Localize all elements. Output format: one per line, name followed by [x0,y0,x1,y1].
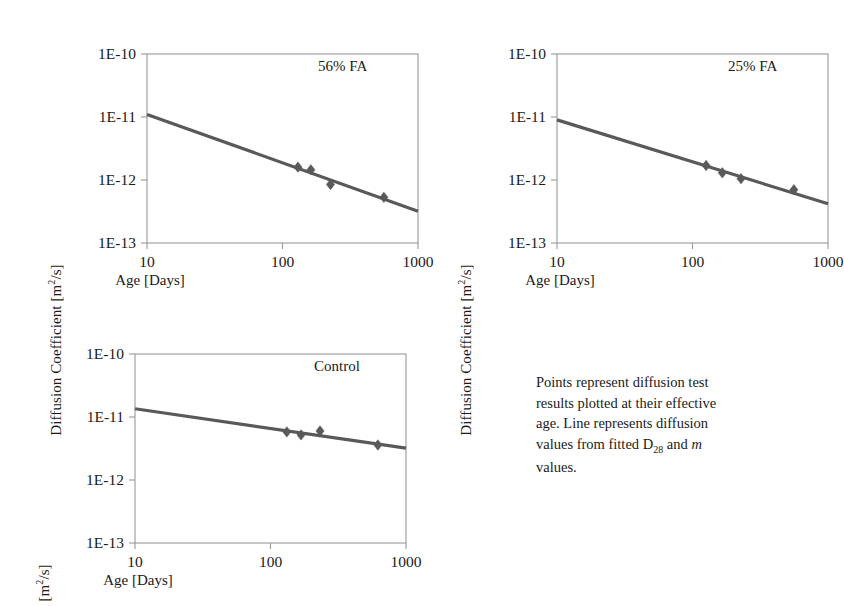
data-point-marker [283,427,291,437]
y-tick-label: 1E-11 [99,108,136,125]
y-tick-label: 1E-13 [86,534,124,551]
caption-line-4a: values from fitted D [536,436,653,452]
x-tick-label: 10 [549,253,565,270]
x-tick-label: 100 [259,553,283,570]
y-tick-label: 1E-10 [98,45,136,62]
caption-line-3: age. Line represents diffusion [536,415,708,431]
caption-subscript-28: 28 [653,444,663,455]
caption-line-2: results plotted at their effective [536,395,716,411]
caption-variable-m: m [691,436,701,452]
fit-line [147,114,418,211]
caption-line-4b: and [663,436,691,452]
y-tick-label: 1E-11 [87,408,124,425]
chart-title-control: Control [314,358,360,375]
x-tick-label: 1000 [391,553,422,570]
y-tick-label: 1E-13 [508,234,546,251]
data-point-marker [374,440,382,450]
x-tick-label: 1000 [813,253,844,270]
x-tick-label: 10 [139,253,155,270]
y-tick-label: 1E-12 [508,171,546,188]
plot-frame [135,354,406,543]
x-tick-label: 10 [127,553,143,570]
caption-line-1: Points represent diffusion test [536,374,709,390]
x-axis-title: Age [Days] [0,572,348,589]
chart-panel-25-fa: Diffusion Coefficient [m2/s] 25% FA 1E-1… [410,0,830,305]
chart-panel-control: Diffusion Coefficient [m2/s] Control 1E-… [0,300,408,605]
chart-panel-56-fa: Diffusion Coefficient [m2/s] 56% FA 1E-1… [0,0,420,305]
x-tick-label: 100 [271,253,295,270]
x-axis-title: Age [Days] [350,272,770,289]
y-tick-label: 1E-12 [98,171,136,188]
fit-line [557,120,828,204]
plot-frame [557,54,828,243]
x-tick-label: 100 [681,253,705,270]
data-point-marker [702,160,710,170]
y-tick-label: 1E-10 [86,345,124,362]
figure-caption: Points represent diffusion test results … [536,372,804,477]
x-axis-title: Age [Days] [0,272,360,289]
y-tick-label: 1E-12 [86,471,124,488]
plot-area-control: 1E-101E-111E-121E-13101001000 [0,300,408,605]
caption-line-5: values. [536,459,577,475]
y-tick-label: 1E-11 [509,108,546,125]
plot-frame [147,54,418,243]
chart-title-56-fa: 56% FA [318,58,367,75]
y-tick-label: 1E-13 [98,234,136,251]
chart-title-25-fa: 25% FA [728,58,777,75]
fit-line [135,409,406,448]
y-tick-label: 1E-10 [508,45,546,62]
